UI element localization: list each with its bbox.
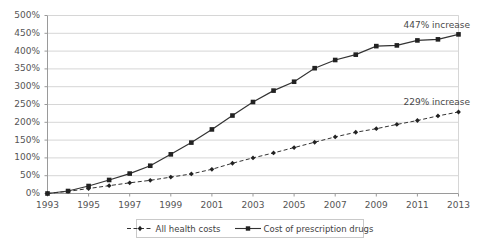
marker-1-2004 [271, 88, 276, 93]
x-tick-label-2011: 2011 [397, 201, 437, 210]
marker-1-2009 [374, 44, 379, 49]
marker-1-2001 [210, 127, 215, 132]
x-tick-label-2009: 2009 [356, 201, 396, 210]
marker-0-2012 [436, 113, 441, 118]
marker-0-2007 [333, 135, 338, 140]
marker-1-1993 [45, 191, 50, 196]
x-tick-label-1999: 1999 [151, 201, 191, 210]
annotation-prescription-drugs: 447% increase [403, 20, 470, 30]
chart-container: 0%50%100%150%200%250%300%350%400%450%500… [0, 0, 478, 244]
legend-dashed-line-icon [127, 224, 153, 233]
marker-1-2002 [230, 113, 235, 118]
legend-item-all-health-costs[interactable]: All health costs [127, 224, 221, 234]
gridlines [48, 16, 459, 194]
marker-1-2008 [353, 52, 358, 57]
x-tick-label-2005: 2005 [274, 201, 314, 210]
marker-1-2003 [251, 100, 256, 105]
x-tick-label-1993: 1993 [28, 201, 68, 210]
marker-0-2002 [230, 161, 235, 166]
marker-1-2006 [312, 66, 317, 71]
marker-1-1995 [86, 184, 91, 189]
y-tick-label-450: 450% [0, 29, 40, 38]
legend-label-prescription-drugs: Cost of prescription drugs [264, 224, 374, 234]
x-tick-label-1995: 1995 [69, 201, 109, 210]
legend-label-all-health-costs: All health costs [156, 224, 221, 234]
marker-1-2010 [395, 43, 400, 48]
marker-1-1994 [66, 189, 71, 194]
marker-0-2013 [456, 110, 461, 115]
y-tick-label-400: 400% [0, 47, 40, 56]
marker-0-2001 [210, 167, 215, 172]
marker-1-1999 [169, 152, 174, 157]
x-tick-label-2003: 2003 [233, 201, 273, 210]
y-tick-label-350: 350% [0, 64, 40, 73]
legend-item-prescription-drugs[interactable]: Cost of prescription drugs [235, 224, 374, 234]
marker-1-2013 [456, 32, 461, 37]
marker-1-2012 [436, 37, 441, 42]
x-tick-label-2007: 2007 [315, 201, 355, 210]
marker-0-2008 [353, 130, 358, 135]
marker-1-2007 [333, 58, 338, 63]
legend-solid-line-icon [235, 224, 261, 233]
marker-0-2009 [374, 126, 379, 131]
y-tick-label-250: 250% [0, 100, 40, 109]
x-axis-ticks [45, 16, 459, 197]
x-tick-label-2013: 2013 [439, 201, 478, 210]
marker-1-1996 [107, 178, 112, 183]
y-tick-label-300: 300% [0, 82, 40, 91]
marker-0-1997 [127, 180, 132, 185]
marker-0-2003 [251, 156, 256, 161]
marker-0-2004 [271, 151, 276, 156]
marker-0-1996 [107, 183, 112, 188]
marker-1-1998 [148, 163, 153, 168]
data-series-layer [45, 32, 461, 196]
marker-1-2000 [189, 140, 194, 145]
marker-0-1998 [148, 178, 153, 183]
y-tick-label-100: 100% [0, 153, 40, 162]
annotation-all-health-costs: 229% increase [403, 97, 470, 107]
series-line-1 [48, 34, 459, 193]
chart-legend[interactable]: All health costs Cost of prescription dr… [136, 219, 364, 238]
y-tick-label-150: 150% [0, 136, 40, 145]
marker-1-2011 [415, 38, 420, 43]
y-tick-label-50: 50% [0, 171, 40, 180]
marker-0-2005 [292, 145, 297, 150]
y-tick-label-200: 200% [0, 118, 40, 127]
y-tick-label-500: 500% [0, 11, 40, 20]
marker-1-2005 [292, 79, 297, 84]
marker-1-1997 [127, 171, 132, 176]
x-tick-label-1997: 1997 [110, 201, 150, 210]
x-tick-label-2001: 2001 [192, 201, 232, 210]
y-tick-label-0: 0% [0, 189, 40, 198]
